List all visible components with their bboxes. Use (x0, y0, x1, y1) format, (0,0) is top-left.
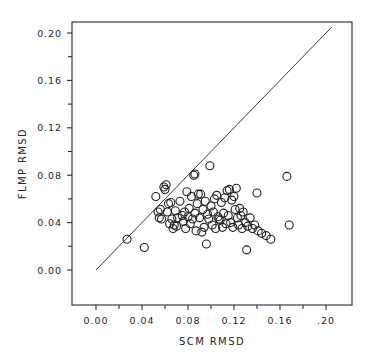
y-axis-title: FLMP RMSD (17, 128, 28, 199)
scatter-marker (220, 209, 228, 217)
scatter-marker (186, 220, 194, 228)
x-tick-label: 0.08 (176, 315, 201, 326)
x-tick-label: 0.04 (130, 315, 155, 326)
scatter-marker (205, 215, 213, 223)
axis-ticks (67, 33, 326, 310)
scatter-marker (202, 240, 210, 248)
scatter-marker (183, 188, 191, 196)
plot-border (72, 22, 352, 305)
scatter-marker (198, 228, 206, 236)
scatter-marker (200, 223, 208, 231)
scatter-marker (140, 243, 148, 251)
scatter-marker (182, 225, 190, 233)
scatter-marker (243, 246, 251, 254)
scatter-marker (283, 172, 291, 180)
x-tick-label: .20 (317, 315, 335, 326)
scatter-marker (123, 235, 131, 243)
scatter-marker (163, 208, 171, 216)
scatter-marker (206, 162, 214, 170)
plot-frame (72, 22, 352, 305)
data-points (123, 162, 293, 254)
scatter-marker (152, 193, 160, 201)
plot-canvas: 0.000.040.080.120.16.200.000.040.080.120… (0, 0, 372, 357)
scatter-marker (285, 221, 293, 229)
scatter-marker (199, 206, 207, 214)
scatter-marker (167, 198, 175, 206)
scatter-marker (192, 227, 200, 235)
x-tick-label: 0.00 (84, 315, 109, 326)
scatter-marker (162, 181, 170, 189)
scatter-plot-figure: 0.000.040.080.120.16.200.000.040.080.120… (0, 0, 372, 357)
scatter-marker (253, 189, 261, 197)
y-tick-label: 0.00 (37, 265, 62, 276)
identity-line-segment (96, 27, 332, 270)
x-tick-label: 0.12 (222, 315, 247, 326)
x-axis-title: SCM RMSD (179, 336, 245, 347)
y-tick-label: 0.04 (37, 217, 62, 228)
scatter-marker (246, 214, 254, 222)
y-tick-label: 0.20 (37, 28, 62, 39)
scatter-marker (176, 197, 184, 205)
y-tick-label: 0.12 (37, 122, 62, 133)
y-tick-label: 0.16 (37, 75, 62, 86)
scatter-marker (174, 214, 182, 222)
scatter-marker (158, 215, 166, 223)
identity-reference-line (96, 27, 332, 270)
x-tick-label: 0.16 (268, 315, 293, 326)
y-tick-label: 0.08 (37, 170, 62, 181)
